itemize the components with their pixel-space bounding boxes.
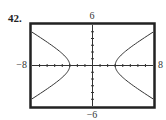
xmin-label: −8 xyxy=(16,59,27,70)
xmax-label: 8 xyxy=(158,59,163,70)
ymax-label: 6 xyxy=(90,10,95,21)
hyperbola-chart: 6 −6 −8 8 xyxy=(0,0,166,120)
ymin-label: −6 xyxy=(87,109,98,120)
